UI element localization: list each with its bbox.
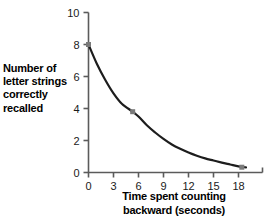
x-axis-tick-label: 6 xyxy=(135,180,141,192)
y-axis-tick-label: 2 xyxy=(73,135,79,147)
y-axis: 0246810 xyxy=(67,7,88,179)
data-point-marker xyxy=(86,42,91,47)
plot-area: 0246810 0369121518 xyxy=(0,0,271,220)
y-axis-tick-label: 0 xyxy=(73,167,79,179)
y-axis-tick-label: 8 xyxy=(73,39,79,51)
x-axis-tick-label: 12 xyxy=(182,180,194,192)
data-point-marker xyxy=(130,109,135,114)
x-axis-tick-label: 9 xyxy=(160,180,166,192)
y-axis-tick-label: 10 xyxy=(67,7,79,19)
chart-figure: Number of letter strings correctly recal… xyxy=(0,0,271,220)
x-axis-tick-label: 3 xyxy=(110,180,116,192)
series-line xyxy=(89,45,247,168)
data-point-marker xyxy=(239,165,244,170)
data-series xyxy=(89,45,247,168)
x-axis-tick-label: 18 xyxy=(232,180,244,192)
y-axis-tick-label: 4 xyxy=(73,103,79,115)
x-axis-tick-label: 15 xyxy=(207,180,219,192)
y-axis-tick-label: 6 xyxy=(73,71,79,83)
x-axis-tick-label: 0 xyxy=(85,180,91,192)
x-axis: 0369121518 xyxy=(85,168,262,192)
data-markers xyxy=(86,42,244,170)
